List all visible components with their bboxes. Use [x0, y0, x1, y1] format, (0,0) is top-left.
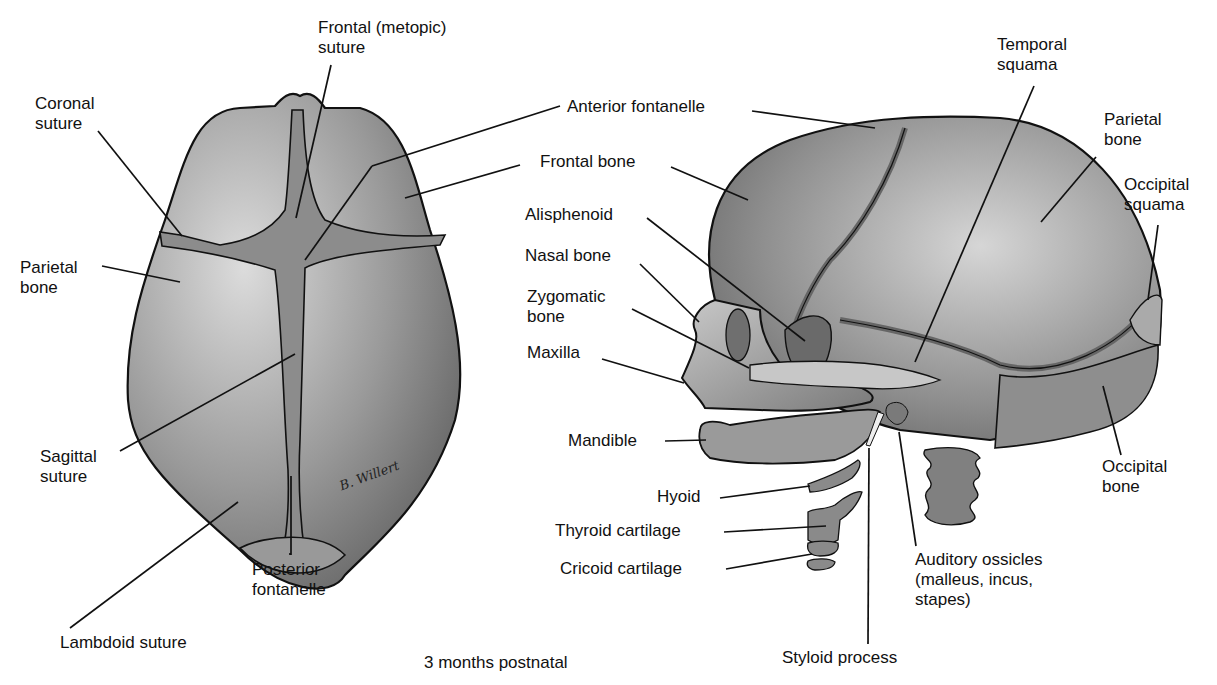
- label-occipital-bone: Occipital bone: [1102, 457, 1167, 497]
- label-occipital-squama: Occipital squama: [1124, 175, 1189, 215]
- label-lambdoid-suture: Lambdoid suture: [60, 633, 187, 653]
- label-alisphenoid: Alisphenoid: [525, 205, 613, 225]
- label-zygomatic-bone: Zygomatic bone: [527, 287, 605, 327]
- label-frontal-metopic-suture: Frontal (metopic) suture: [318, 18, 446, 58]
- label-thyroid-cartilage: Thyroid cartilage: [555, 521, 681, 541]
- label-hyoid: Hyoid: [657, 487, 700, 507]
- label-maxilla: Maxilla: [527, 343, 580, 363]
- lateral-skull: [682, 117, 1162, 570]
- figure-caption: 3 months postnatal: [424, 653, 568, 673]
- label-posterior-fontanelle: Posterior fontanelle: [252, 560, 326, 600]
- label-mandible: Mandible: [568, 431, 637, 451]
- label-cricoid-cartilage: Cricoid cartilage: [560, 559, 682, 579]
- label-nasal-bone: Nasal bone: [525, 246, 611, 266]
- label-frontal-bone: Frontal bone: [540, 152, 635, 172]
- label-coronal-suture: Coronal suture: [35, 94, 95, 134]
- superior-skull: [128, 94, 461, 589]
- label-styloid-process: Styloid process: [782, 648, 897, 668]
- label-anterior-fontanelle: Anterior fontanelle: [567, 97, 705, 117]
- label-parietal-bone-lateral: Parietal bone: [1104, 110, 1162, 150]
- label-parietal-bone-superior: Parietal bone: [20, 258, 78, 298]
- label-sagittal-suture: Sagittal suture: [40, 447, 97, 487]
- label-temporal-squama: Temporal squama: [997, 35, 1067, 75]
- label-auditory-ossicles: Auditory ossicles (malleus, incus, stape…: [915, 550, 1043, 610]
